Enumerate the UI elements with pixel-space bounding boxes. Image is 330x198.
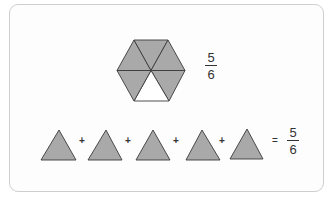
shaded-triangle (186, 130, 220, 160)
fraction-denominator: 6 (285, 143, 301, 156)
plus-sign: + (79, 136, 85, 146)
fraction-denominator: 6 (203, 68, 219, 81)
result-fraction-label: 5 6 (285, 126, 301, 156)
plus-sign: + (173, 136, 179, 146)
plus-sign: + (219, 136, 225, 146)
shaded-triangle (88, 130, 122, 160)
fraction-numerator: 5 (285, 126, 301, 139)
hexagon-fraction-label: 5 6 (203, 51, 219, 81)
hexagon-fraction-model (117, 40, 185, 101)
shaded-triangle (136, 130, 170, 160)
triangle-addition-row (41, 129, 263, 160)
plus-sign: + (125, 136, 131, 146)
fraction-bar (205, 65, 217, 66)
shaded-triangle (230, 129, 263, 159)
fraction-numerator: 5 (203, 51, 219, 64)
shaded-triangle (41, 130, 76, 160)
fraction-diagram (0, 0, 330, 198)
equals-sign: = (272, 136, 278, 146)
fraction-bar (287, 140, 299, 141)
